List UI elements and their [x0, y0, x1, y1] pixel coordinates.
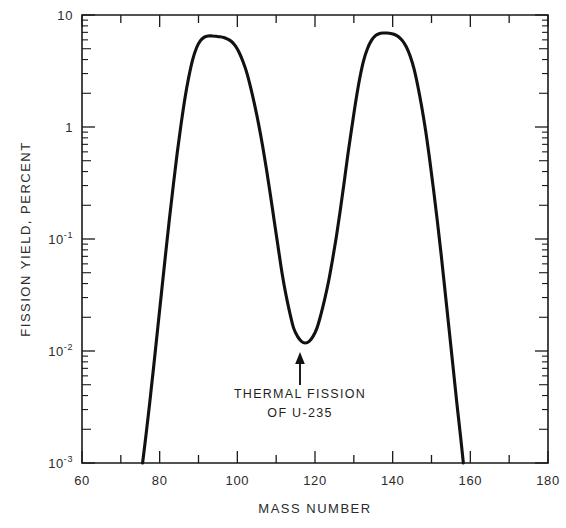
y-tick-label: 10-2 [48, 342, 73, 359]
y-tick-label: 10-1 [48, 230, 73, 247]
y-tick-label: 1 [65, 120, 73, 135]
x-tick-label: 180 [536, 473, 560, 488]
x-axis-title: MASS NUMBER [258, 501, 371, 516]
y-axis-tick-labels: 10110-110-210-3 [48, 8, 73, 471]
y-axis-title: FISSION YIELD, PERCENT [18, 141, 33, 336]
annotation-arrow [295, 352, 305, 385]
x-tick-label: 120 [303, 473, 327, 488]
y-tick-label: 10-3 [48, 454, 73, 471]
x-tick-label: 100 [226, 473, 250, 488]
annotation-line-2: OF U-235 [267, 406, 332, 420]
x-tick-label: 160 [459, 473, 483, 488]
x-tick-label: 80 [152, 473, 168, 488]
x-axis-tick-labels: 6080100120140160180 [74, 473, 560, 488]
x-tick-label: 140 [381, 473, 405, 488]
y-tick-label: 10 [57, 8, 73, 23]
fission-yield-chart-figure: 6080100120140160180 10110-110-210-3 THER… [0, 0, 566, 528]
x-tick-label: 60 [74, 473, 90, 488]
chart-canvas: 6080100120140160180 10110-110-210-3 THER… [0, 0, 566, 528]
annotation-line-1: THERMAL FISSION [234, 387, 366, 401]
